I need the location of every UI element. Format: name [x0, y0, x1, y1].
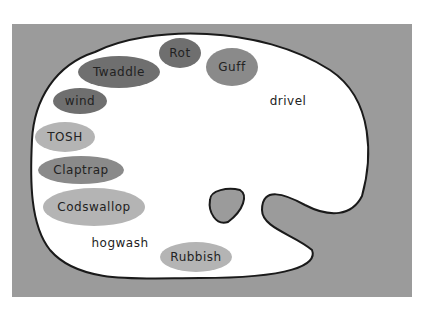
- blob-hogwash: hogwash: [82, 228, 158, 258]
- blob-drivel: drivel: [255, 86, 321, 116]
- blob-tosh: TOSH: [35, 122, 95, 152]
- blob-rubbish: Rubbish: [160, 242, 232, 272]
- blob-wind: wind: [53, 88, 107, 114]
- blob-rot: Rot: [159, 38, 201, 68]
- blob-guff: Guff: [206, 48, 258, 86]
- blob-codswallop: Codswallop: [43, 188, 145, 226]
- blob-claptrap: Claptrap: [38, 156, 124, 184]
- blob-twaddle: Twaddle: [78, 56, 160, 88]
